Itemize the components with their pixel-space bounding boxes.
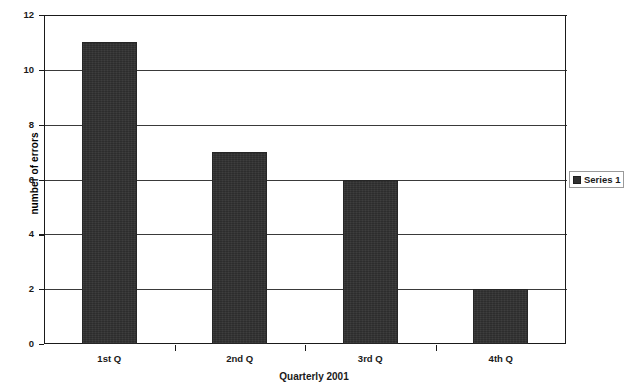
x-tick-label: 4th Q — [456, 353, 546, 364]
bar — [473, 289, 528, 344]
bar — [212, 152, 267, 344]
legend[interactable]: Series 1 — [569, 171, 624, 188]
x-axis-title: Quarterly 2001 — [0, 371, 628, 382]
x-tick-mark — [305, 345, 306, 351]
bar-chart: number of errors 024681012 1st Q2nd Q3rd… — [0, 0, 628, 391]
x-tick-label: 2nd Q — [195, 353, 285, 364]
y-tick-label: 10 — [2, 64, 34, 75]
bar-series-1 — [44, 15, 566, 344]
y-tick-label: 2 — [2, 283, 34, 294]
y-tick-label: 8 — [2, 119, 34, 130]
bar — [82, 42, 137, 344]
filled-square-marker-icon — [573, 176, 581, 184]
y-tick-label: 6 — [2, 174, 34, 185]
x-tick-mark — [436, 345, 437, 351]
x-tick-label: 3rd Q — [325, 353, 415, 364]
y-tick-mark — [39, 344, 44, 345]
x-tick-mark — [175, 345, 176, 351]
y-tick-label: 0 — [2, 338, 34, 349]
x-tick-label: 1st Q — [64, 353, 154, 364]
legend-item-label: Series 1 — [584, 174, 620, 185]
y-tick-label: 12 — [2, 9, 34, 20]
bar — [343, 180, 398, 345]
y-tick-label: 4 — [2, 228, 34, 239]
